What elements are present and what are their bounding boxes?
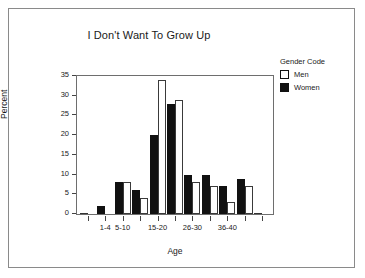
x-tick-mark — [158, 216, 159, 221]
chart-title: I Don't Want To Grow Up — [9, 29, 289, 41]
y-tick-label: 25 — [42, 109, 76, 118]
bar-group — [167, 76, 183, 214]
x-tick-label: 36-40 — [218, 223, 237, 232]
x-axis-tick-labels: 1-45-1015-2026-3036-40 — [66, 223, 286, 235]
y-tick-label: 10 — [42, 169, 76, 178]
bar-groups — [77, 76, 273, 214]
x-axis-ticks — [76, 216, 274, 222]
bar-group — [132, 76, 148, 214]
y-tick-label: 5 — [42, 188, 76, 197]
bar-women — [115, 182, 123, 214]
bar-women — [80, 213, 88, 214]
bar-group — [184, 76, 200, 214]
x-tick-mark — [210, 216, 211, 221]
x-tick-label: 5-10 — [115, 223, 130, 232]
x-tick-mark — [105, 216, 106, 221]
bar-group — [219, 76, 235, 214]
x-tick-label: 15-20 — [148, 223, 167, 232]
x-tick-mark — [88, 216, 89, 221]
bar-women — [132, 190, 140, 214]
bar-group — [202, 76, 218, 214]
bar-men — [262, 213, 270, 214]
bar-group — [97, 76, 113, 214]
bar-men — [175, 100, 183, 214]
legend-label-men: Men — [294, 70, 309, 79]
y-tick-label: 35 — [42, 70, 76, 79]
bar-group — [115, 76, 131, 214]
bar-men — [227, 202, 235, 214]
y-tick-label: 15 — [42, 149, 76, 158]
bar-women — [254, 213, 262, 214]
bar-men — [210, 186, 218, 214]
x-tick-label: 26-30 — [183, 223, 202, 232]
y-axis: 05101520253035 — [49, 69, 76, 221]
bar-women — [97, 206, 105, 214]
bar-group — [80, 76, 96, 214]
bar-men — [158, 80, 166, 214]
bar-men — [123, 182, 131, 214]
bar-men — [105, 213, 113, 214]
bar-women — [202, 175, 210, 214]
bar-group — [150, 76, 166, 214]
x-tick-mark — [245, 216, 246, 221]
bar-women — [237, 179, 245, 214]
y-tick-label: 20 — [42, 129, 76, 138]
bar-women — [167, 104, 175, 214]
legend-item-women: Women — [280, 83, 356, 92]
bar-women — [219, 186, 227, 214]
plot-area — [76, 75, 274, 215]
bar-men — [245, 186, 253, 214]
y-axis-label: Percent — [0, 90, 9, 119]
legend-item-men: Men — [280, 70, 356, 79]
bar-men — [192, 182, 200, 214]
legend: Gender Code Men Women — [280, 57, 356, 96]
y-tick-label: 30 — [42, 90, 76, 99]
bar-men — [140, 198, 148, 214]
bar-group — [254, 76, 270, 214]
bar-women — [184, 175, 192, 214]
x-tick-mark — [262, 216, 263, 221]
x-tick-mark — [227, 216, 228, 221]
x-tick-mark — [192, 216, 193, 221]
x-axis-label: Age — [76, 246, 274, 256]
bar-group — [237, 76, 253, 214]
x-tick-mark — [123, 216, 124, 221]
x-tick-mark — [140, 216, 141, 221]
hollow-square-icon — [280, 70, 289, 79]
legend-label-women: Women — [294, 83, 320, 92]
filled-square-icon — [280, 83, 289, 92]
chart-figure: I Don't Want To Grow Up Gender Code Men … — [8, 8, 355, 268]
x-tick-label: 1-4 — [100, 223, 111, 232]
bar-women — [150, 135, 158, 214]
bar-men — [88, 213, 96, 214]
x-tick-mark — [175, 216, 176, 221]
y-tick-label: 0 — [42, 208, 76, 217]
legend-title: Gender Code — [280, 57, 356, 66]
